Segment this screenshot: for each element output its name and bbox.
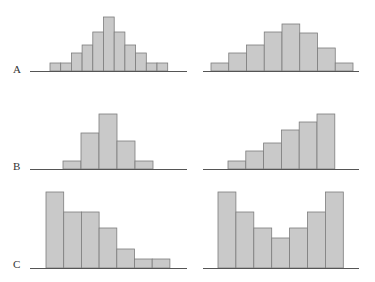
histogram-bar <box>299 122 317 169</box>
histogram-bar <box>93 32 104 71</box>
histogram-a-left <box>30 17 187 72</box>
histogram-bar <box>71 53 82 71</box>
histogram-bar <box>64 212 82 268</box>
histogram-bar <box>63 161 81 169</box>
histogram-bar <box>254 228 272 268</box>
histogram-bar <box>272 238 290 268</box>
histogram-c-left <box>30 192 187 269</box>
histogram-bar <box>82 45 93 71</box>
histogram-bar <box>300 33 318 71</box>
histogram-bar <box>50 63 61 71</box>
histogram-bar <box>218 192 236 268</box>
histogram-bar <box>308 212 326 268</box>
histogram-bar <box>236 212 254 268</box>
histogram-bar <box>46 192 64 268</box>
histogram-bar <box>104 17 115 71</box>
histogram-bar <box>264 32 282 71</box>
histogram-bar <box>114 32 125 71</box>
histogram-bar <box>117 141 135 169</box>
histogram-bar <box>211 63 229 71</box>
histogram-a-right <box>203 24 359 72</box>
histogram-bar <box>136 53 147 71</box>
histogram-bar <box>117 249 135 268</box>
histogram-figure: A B C <box>0 0 375 282</box>
histogram-bar <box>61 63 72 71</box>
histogram-bar <box>325 192 343 268</box>
histogram-bar <box>99 114 117 169</box>
histogram-b-left <box>30 114 187 170</box>
histogram-bar <box>281 130 299 169</box>
histogram-bar <box>228 161 246 169</box>
histogram-bar <box>135 161 153 169</box>
histogram-bar <box>81 212 99 268</box>
histogram-bar <box>157 63 168 71</box>
histogram-bar <box>99 228 117 268</box>
histogram-panels <box>0 0 375 282</box>
histogram-bar <box>264 143 282 169</box>
histogram-c-right <box>203 192 359 269</box>
histogram-b-right <box>203 114 359 170</box>
histogram-bar <box>229 53 247 71</box>
histogram-bar <box>246 151 264 169</box>
histogram-bar <box>282 24 300 71</box>
histogram-bar <box>290 228 308 268</box>
histogram-bar <box>135 259 153 268</box>
histogram-bar <box>335 63 353 71</box>
histogram-bar <box>146 63 157 71</box>
histogram-bar <box>125 45 136 71</box>
histogram-bar <box>247 45 265 71</box>
histogram-bar <box>81 133 99 169</box>
histogram-bar <box>152 259 170 268</box>
histogram-bar <box>318 48 336 71</box>
histogram-bar <box>317 114 335 169</box>
